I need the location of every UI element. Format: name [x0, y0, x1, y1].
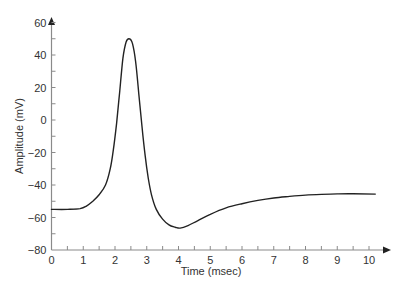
- y-tick-label: −40: [28, 179, 47, 191]
- y-tick-label: −20: [28, 147, 47, 159]
- x-axis-title: Time (msec): [181, 265, 242, 277]
- amplitude-curve: [52, 39, 376, 228]
- y-axis-arrow-icon: [48, 17, 55, 25]
- x-axis: 012345678910: [48, 246, 391, 266]
- y-axis-title: Amplitude (mV): [13, 98, 25, 174]
- x-tick-label: 2: [112, 254, 118, 266]
- action-potential-chart: 012345678910 −80−60−40−200204060 Time (m…: [0, 0, 403, 295]
- x-tick-label: 3: [144, 254, 150, 266]
- y-tick-label: 40: [34, 49, 46, 61]
- x-tick-label: 0: [48, 254, 54, 266]
- x-tick-label: 7: [271, 254, 277, 266]
- y-tick-label: 60: [34, 17, 46, 29]
- x-tick-label: 10: [363, 254, 375, 266]
- x-tick-label: 8: [302, 254, 308, 266]
- x-axis-arrow-icon: [383, 247, 391, 254]
- x-tick-label: 9: [334, 254, 340, 266]
- y-tick-label: 20: [34, 82, 46, 94]
- y-tick-label: −60: [28, 212, 47, 224]
- y-tick-label: −80: [28, 244, 47, 256]
- y-axis: −80−60−40−200204060: [28, 17, 56, 257]
- x-tick-label: 1: [80, 254, 86, 266]
- y-tick-label: 0: [40, 114, 46, 126]
